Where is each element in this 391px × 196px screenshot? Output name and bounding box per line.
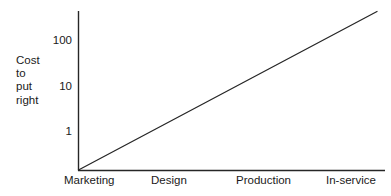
x-tick-marketing: Marketing — [64, 174, 115, 187]
y-tick-100-label: 100 — [24, 35, 72, 47]
y-tick-1: 1 — [24, 126, 72, 138]
y-tick-10-label: 10 — [24, 81, 72, 93]
y-axis-title-line-2: to — [16, 67, 70, 80]
y-tick-100: 100 — [24, 35, 72, 47]
y-tick-10: 10 — [24, 81, 72, 93]
y-axis-title-line-1: Cost — [16, 54, 70, 67]
x-tick-in-service: In-service — [326, 174, 376, 187]
data-line-cost — [79, 12, 378, 171]
y-tick-1-label: 1 — [24, 126, 72, 138]
x-tick-design: Design — [151, 174, 187, 187]
y-axis-title-line-4: right — [16, 94, 70, 107]
cost-to-put-right-chart: Cost to put right 100 10 1 Marketing Des… — [0, 0, 391, 196]
x-tick-production: Production — [236, 174, 291, 187]
